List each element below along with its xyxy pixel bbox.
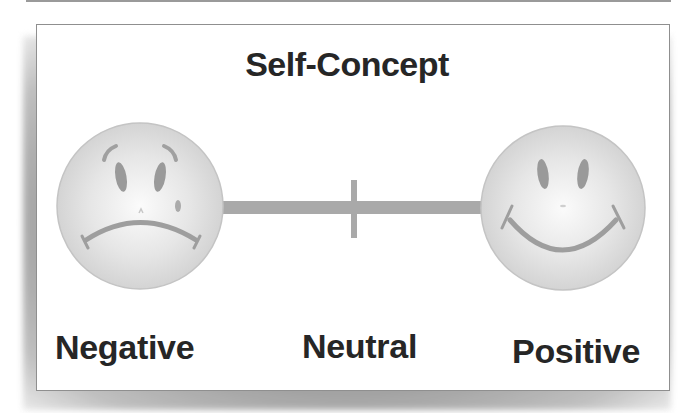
neutral-label: Neutral <box>302 326 417 366</box>
happy-face-icon <box>481 126 645 290</box>
sad-face-icon <box>57 123 223 289</box>
negative-label: Negative <box>55 327 194 367</box>
positive-label: Positive <box>512 331 640 371</box>
neutral-tick-mark <box>351 180 357 238</box>
